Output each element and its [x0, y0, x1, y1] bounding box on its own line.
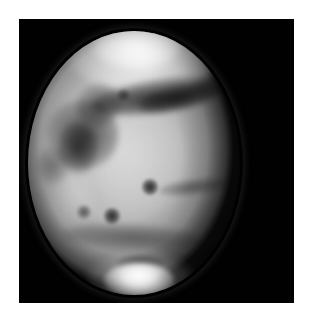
south-dark-band-feature: [61, 220, 202, 254]
dark-spot-lower-left: [77, 205, 91, 219]
page-canvas: [0, 0, 314, 324]
caption-strip: [0, 311, 314, 324]
image-panel: [19, 19, 294, 303]
planet-surface-features: [28, 31, 240, 295]
dark-spot-upper-center: [117, 89, 130, 101]
planet-disk-container: [19, 19, 294, 303]
dark-spot-lower-center: [104, 208, 120, 224]
south-polar-cap-feature: [104, 263, 174, 295]
